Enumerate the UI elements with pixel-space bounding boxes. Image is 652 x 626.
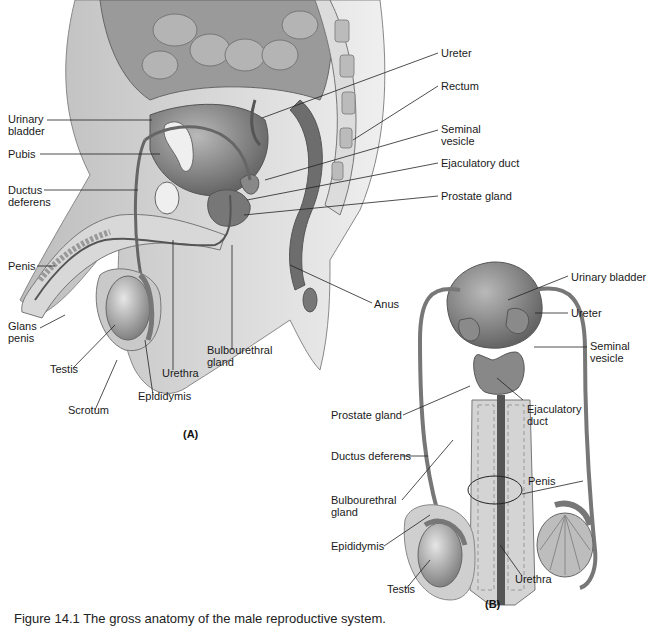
label-a-ureter: Ureter [441, 47, 472, 59]
label-b-urethra: Urethra [515, 573, 552, 585]
panel-a-sagittal-section [20, 0, 385, 393]
label-b-ureter: Ureter [571, 307, 602, 319]
label-b-testis: Testis [387, 583, 415, 595]
label-b-penis: Penis [528, 475, 556, 487]
label-a-prostate-gland: Prostate gland [441, 190, 512, 202]
label-a-testis: Testis [50, 363, 78, 375]
label-a-penis: Penis [8, 260, 36, 272]
label-a-rectum: Rectum [441, 80, 479, 92]
label-b-prostate-gland: Prostate gland [331, 409, 402, 421]
label-a-anus: Anus [374, 298, 399, 310]
label-b-seminal-vesicle: Seminal vesicle [590, 340, 630, 364]
label-b-ductus-deferens: Ductus deferens [331, 450, 411, 462]
figure-caption: Figure 14.1 The gross anatomy of the mal… [14, 611, 386, 626]
label-a-ejaculatory-duct: Ejaculatory duct [441, 157, 519, 169]
label-a-seminal-vesicle: Seminal vesicle [441, 123, 481, 147]
label-a-bulbourethral-gland: Bulbourethral gland [207, 344, 272, 368]
label-b-urinary-bladder: Urinary bladder [571, 271, 646, 283]
label-a-urinary-bladder: Urinary bladder [8, 113, 45, 137]
label-a-ductus-deferens: Ductus deferens [8, 184, 51, 208]
panel-a-tag: (A) [183, 428, 198, 440]
label-b-bulbourethral-gland: Bulbourethral gland [331, 494, 396, 518]
label-b-ejaculatory-duct: Ejaculatory duct [527, 403, 581, 427]
label-a-scrotum: Scrotum [68, 404, 109, 416]
panel-b-frontal-view [404, 262, 595, 605]
panel-b-tag: (B) [485, 598, 500, 610]
label-a-urethra: Urethra [162, 367, 199, 379]
label-a-pubis: Pubis [8, 148, 36, 160]
label-a-epididymis: Epididymis [138, 390, 191, 402]
label-b-epididymis: Epididymis [331, 540, 384, 552]
label-a-glans-penis: Glans penis [8, 320, 37, 344]
